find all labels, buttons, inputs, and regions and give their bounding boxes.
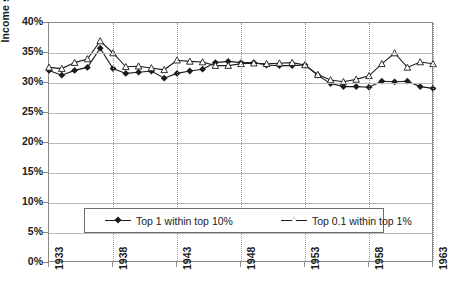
y-tick-label: 5% <box>0 225 43 237</box>
legend-item-top1[interactable]: Top 1 within top 10% <box>105 209 233 232</box>
legend-swatch-triangle <box>281 215 307 226</box>
y-tick-label: 0% <box>0 255 43 267</box>
x-tick-label: 1933 <box>53 247 65 270</box>
x-tick-label: 1953 <box>309 247 321 270</box>
marker-triangle <box>327 77 334 83</box>
marker-triangle <box>97 38 104 44</box>
legend-swatch-diamond <box>105 215 131 226</box>
marker-diamond <box>84 64 91 71</box>
x-tick-label: 1948 <box>245 247 257 270</box>
marker-diamond <box>391 78 398 85</box>
y-tick-label: 15% <box>0 165 43 177</box>
x-tick-mark <box>176 262 177 267</box>
x-tick-label: 1938 <box>117 247 129 270</box>
x-tick-mark <box>432 262 433 267</box>
legend-label-top01: Top 0.1 within top 1% <box>312 215 412 227</box>
y-tick-label: 25% <box>0 105 43 117</box>
y-tick-label: 35% <box>0 45 43 57</box>
marker-diamond <box>135 69 142 76</box>
legend-label-top1: Top 1 within top 10% <box>136 215 233 227</box>
x-tick-label: 1958 <box>373 247 385 270</box>
marker-diamond <box>122 70 129 77</box>
marker-diamond <box>97 45 104 52</box>
gridline-vertical <box>433 23 434 261</box>
x-tick-mark <box>112 262 113 267</box>
figure-caption <box>3 292 441 300</box>
marker-diamond <box>186 68 193 75</box>
x-tick-mark <box>48 262 49 267</box>
y-tick-label: 30% <box>0 75 43 87</box>
x-tick-label: 1943 <box>181 247 193 270</box>
marker-diamond <box>58 72 65 79</box>
marker-diamond <box>417 83 424 90</box>
marker-triangle <box>417 59 424 65</box>
legend-item-top01[interactable]: Top 0.1 within top 1% <box>281 209 412 232</box>
x-tick-mark <box>368 262 369 267</box>
marker-diamond <box>71 67 78 74</box>
marker-diamond <box>353 83 360 90</box>
x-tick-mark <box>240 262 241 267</box>
chart-legend: Top 1 within top 10% Top 0.1 within top … <box>84 208 384 233</box>
y-tick-label: 20% <box>0 135 43 147</box>
marker-diamond <box>161 75 168 82</box>
y-tick-label: 10% <box>0 195 43 207</box>
x-tick-label: 1963 <box>437 247 449 270</box>
x-tick-mark <box>304 262 305 267</box>
marker-diamond <box>199 66 206 73</box>
y-tick-label: 40% <box>0 15 43 27</box>
